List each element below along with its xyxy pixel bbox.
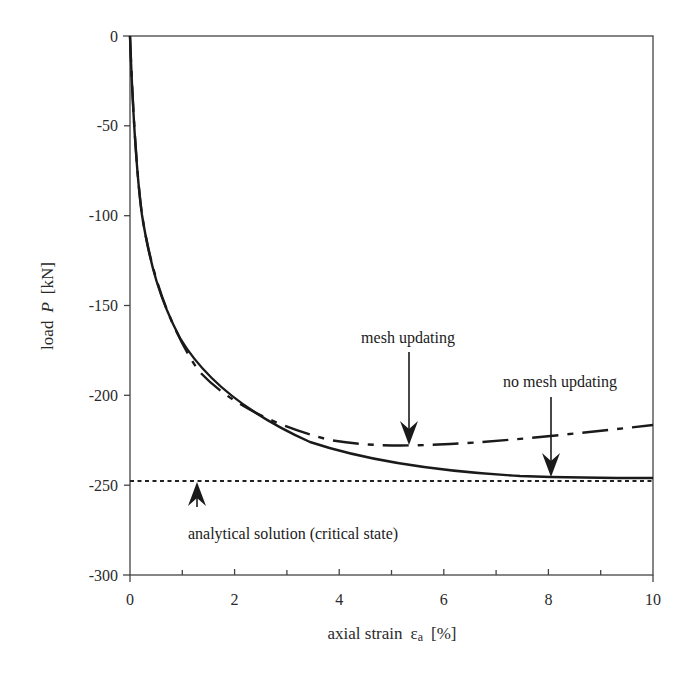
y-axis-title: loadP[kN]: [38, 262, 57, 350]
x-tick-label: 2: [231, 591, 239, 608]
annotation-no-mesh-updating: no mesh updating: [503, 373, 617, 391]
plot-frame: [130, 36, 653, 575]
y-tick-label: -200: [89, 387, 118, 404]
y-tick-label: -250: [89, 477, 118, 494]
x-tick-label: 10: [645, 591, 661, 608]
y-tick-label: -100: [89, 207, 118, 224]
y-tick-label: -150: [89, 297, 118, 314]
y-tick-label: 0: [110, 28, 118, 45]
x-axis-title: axial strainεa[%]: [327, 624, 456, 644]
y-tick-labels: 0 -50 -100 -150 -200 -250 -300: [89, 28, 118, 584]
y-tick-label: -50: [97, 117, 118, 134]
x-tick-label: 6: [440, 591, 448, 608]
x-tick-label: 0: [126, 591, 134, 608]
x-tick-label: 4: [335, 591, 343, 608]
annotation-mesh-updating: mesh updating: [361, 329, 455, 347]
y-tick-label: -300: [89, 567, 118, 584]
load-strain-chart: 0 2 4 6 8 10 0 -50 -100 -150 -200 -250 -…: [0, 0, 693, 679]
annotation-analytical-solution: analytical solution (critical state): [188, 525, 398, 543]
series-no-mesh-updating-curve: [130, 36, 653, 478]
x-tick-label: 8: [544, 591, 552, 608]
arrow-up-icon: [188, 482, 206, 507]
x-tick-labels: 0 2 4 6 8 10: [126, 591, 661, 608]
y-axis-ticks: [123, 36, 130, 575]
arrow-down-icon: [400, 352, 418, 445]
